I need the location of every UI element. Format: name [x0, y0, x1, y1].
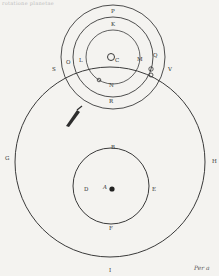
- label-s: S: [52, 66, 56, 72]
- label-i: I: [109, 267, 111, 273]
- label-h: H: [212, 158, 217, 164]
- label-c: C: [115, 57, 119, 63]
- footer-catchword: Per a: [194, 264, 210, 271]
- astronomical-diagram: P K C L M Q O N R S V G H I B D E F A: [0, 0, 219, 276]
- label-r: R: [109, 98, 114, 104]
- label-v: V: [167, 66, 173, 72]
- label-a: A: [102, 184, 107, 190]
- earth-body-icon: [109, 186, 114, 191]
- label-p: P: [111, 8, 115, 14]
- center-c-ring: [108, 54, 115, 61]
- label-l: L: [79, 57, 83, 63]
- upper-inner-circle: [86, 30, 140, 84]
- label-n: N: [109, 82, 114, 88]
- label-k: K: [111, 21, 116, 27]
- label-q: Q: [153, 52, 158, 58]
- label-g: G: [5, 155, 9, 161]
- label-b: B: [111, 144, 115, 150]
- label-e: E: [152, 186, 156, 192]
- label-d: D: [84, 186, 89, 192]
- label-f: F: [109, 225, 113, 231]
- label-o: O: [66, 59, 71, 65]
- label-m: M: [137, 56, 143, 62]
- comet-icon: [66, 110, 80, 127]
